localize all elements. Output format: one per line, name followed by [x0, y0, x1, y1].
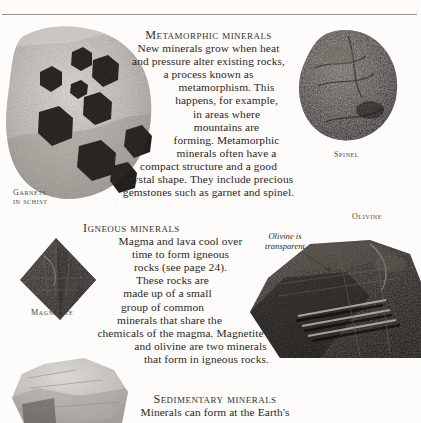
caption-magnetite: Magnetite: [31, 308, 73, 317]
body-line: rocks (see page 24).: [73, 261, 288, 274]
body-line: forming. Metamorphic: [96, 134, 321, 147]
section-sedimentary-minerals: Sedimentary minerals Minerals can form a…: [110, 393, 320, 419]
body-line: minerals that share the: [73, 314, 288, 327]
body-line: These rocks are: [73, 274, 288, 287]
heading-metamorphic: Metamorphic minerals: [96, 29, 321, 42]
heading-sedimentary: Sedimentary minerals: [110, 393, 320, 406]
body-line: made up of a small: [73, 287, 288, 300]
body-line: New minerals grow when heat: [96, 42, 321, 55]
olivine-leader-line: [300, 248, 336, 274]
caption-line: Spinel: [334, 150, 359, 159]
body-line: chemicals of the magma. Magnetite: [73, 327, 288, 340]
page-header-rule: [2, 14, 417, 15]
body-line: group of common: [73, 301, 288, 314]
body-line: metamorphism. This: [96, 81, 321, 94]
body-line: and pressure alter existing rocks,: [96, 55, 321, 68]
body-line: happens, for example,: [96, 94, 321, 107]
body-line: minerals often have a: [96, 147, 321, 160]
caption-line: Olivine: [352, 212, 382, 221]
section-igneous-minerals: Igneous minerals Magma and lava cool ove…: [73, 222, 288, 366]
caption-line: in schist: [13, 197, 47, 206]
heading-igneous: Igneous minerals: [73, 222, 288, 235]
body-line: a process known as: [96, 68, 321, 81]
caption-spinel: Spinel: [334, 150, 359, 159]
body-line: gemstones such as garnet and spinel.: [96, 186, 321, 199]
section-metamorphic-minerals: Metamorphic minerals New minerals grow w…: [96, 29, 321, 199]
body-line: compact structure and a good: [96, 160, 321, 173]
caption-olivine: Olivine: [352, 212, 382, 221]
caption-garnets-in-schist: Garnets in schist: [13, 188, 47, 207]
body-line: and olivine are two minerals: [73, 340, 288, 353]
caption-line: Garnets: [13, 188, 47, 197]
body-line: Magma and lava cool over: [73, 235, 288, 248]
book-page: Garnets in schist: [0, 0, 421, 423]
body-line: crystal shape. They include precious: [96, 173, 321, 186]
body-line: in areas where: [96, 108, 321, 121]
body-line: mountains are: [96, 121, 321, 134]
body-line: time to form igneous: [73, 248, 288, 261]
body-line: Minerals can form at the Earth's: [110, 406, 320, 419]
caption-line: Magnetite: [31, 308, 73, 317]
